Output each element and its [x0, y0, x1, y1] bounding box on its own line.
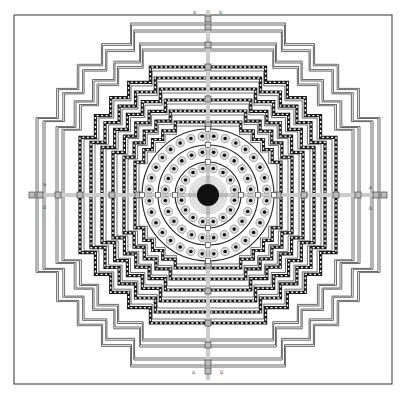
label-north-b: b [219, 9, 222, 15]
label-east-b: b [369, 205, 372, 211]
label-west-a: a [43, 181, 46, 187]
temple-plan-drawing [0, 0, 406, 394]
label-south-b: b [220, 369, 223, 375]
label-north-a: a [193, 9, 196, 15]
label-east-a: a [369, 184, 372, 190]
label-west-b: b [43, 204, 46, 210]
central-stupa [197, 184, 219, 206]
label-south-a: a [192, 369, 195, 375]
